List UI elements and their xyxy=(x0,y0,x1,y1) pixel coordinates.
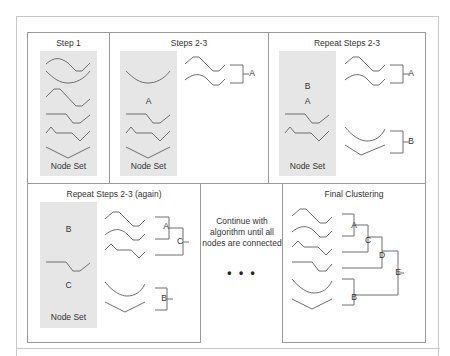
continue-text: Continue with algorithm until all nodes … xyxy=(201,216,283,249)
final-cluster-label-e: E xyxy=(392,267,404,277)
final-cluster-label-a: A xyxy=(348,220,360,230)
repeat23-again-cluster-label-a: A xyxy=(160,221,172,231)
step1-time-series-icon xyxy=(40,51,97,176)
repeat23-again-panel-label-c: C xyxy=(40,280,97,290)
repeat23-panel-label-a: A xyxy=(279,96,336,106)
steps23-node-set-label: Node Set xyxy=(120,161,177,171)
repeat23-again-node-set-label: Node Set xyxy=(40,312,97,322)
repeat23-panel-label-b: B xyxy=(279,81,336,91)
final-clustering-title: Final Clustering xyxy=(282,189,426,199)
continue-line-1: Continue with xyxy=(201,216,283,227)
continue-line-3: nodes are connected xyxy=(201,238,283,249)
repeat23-again-panel-label-b: B xyxy=(40,224,97,234)
step1-node-set-label: Node Set xyxy=(40,161,97,171)
repeat23-cluster-label-b: B xyxy=(405,136,417,146)
repeat23-again-panel-series-icon xyxy=(40,202,97,328)
repeat23-panel-series-icon xyxy=(279,51,336,176)
steps23-cluster-label-a: A xyxy=(246,68,258,78)
repeat23-again-title: Repeat Steps 2-3 (again) xyxy=(27,189,201,199)
steps23-panel-label-a: A xyxy=(120,96,177,106)
step1-title: Step 1 xyxy=(27,38,110,48)
bottom-divider xyxy=(16,348,440,349)
repeat23-node-set-label: Node Set xyxy=(279,161,336,171)
steps23-dendrogram-icon xyxy=(183,55,263,105)
repeat23-again-cluster-label-c: C xyxy=(174,236,186,246)
continue-line-2: algorithm until all xyxy=(201,227,283,238)
ellipsis-icon: • • • xyxy=(201,266,283,280)
repeat23-cluster-label-a: A xyxy=(405,68,417,78)
final-cluster-label-b: B xyxy=(348,292,360,302)
repeat23-again-cluster-label-b: B xyxy=(158,293,170,303)
steps23-title: Steps 2-3 xyxy=(109,38,269,48)
repeat23-again-dendrogram-icon xyxy=(103,210,198,335)
repeat23-title: Repeat Steps 2-3 xyxy=(268,38,426,48)
steps23-panel-series-icon xyxy=(120,51,177,176)
final-cluster-label-d: D xyxy=(376,250,388,260)
final-cluster-label-c: C xyxy=(362,235,374,245)
